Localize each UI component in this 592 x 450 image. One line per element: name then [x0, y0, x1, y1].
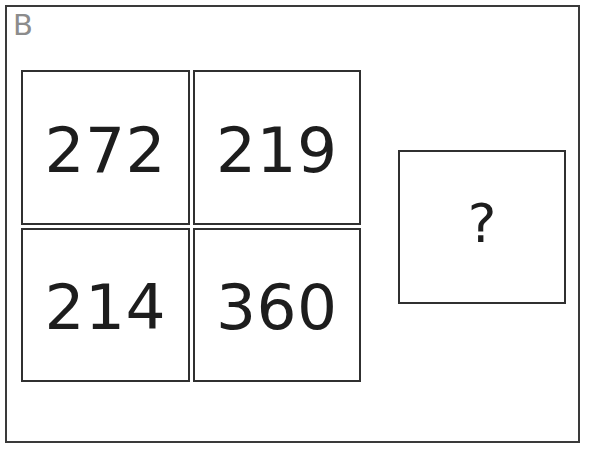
frame-bottom-edge-fade: [7, 438, 578, 441]
matrix-cell-r2c2[interactable]: 360: [193, 228, 362, 383]
matrix-cell-r1c2[interactable]: 219: [193, 70, 362, 225]
matrix-cell-value: 360: [216, 270, 338, 339]
matrix-cell-value: 219: [216, 113, 338, 182]
panel-label: B: [13, 11, 33, 40]
number-matrix: 272 219 214 360: [21, 70, 361, 382]
puzzle-panel: B 272 219 214 360 ?: [0, 0, 592, 450]
matrix-cell-r2c1[interactable]: 214: [21, 228, 190, 383]
frame-right-edge-fade: [575, 7, 578, 441]
matrix-cell-value: 272: [44, 113, 166, 182]
answer-box[interactable]: ?: [398, 150, 566, 304]
question-mark-icon: ?: [468, 197, 497, 257]
matrix-cell-value: 214: [44, 270, 166, 339]
matrix-cell-r1c1[interactable]: 272: [21, 70, 190, 225]
